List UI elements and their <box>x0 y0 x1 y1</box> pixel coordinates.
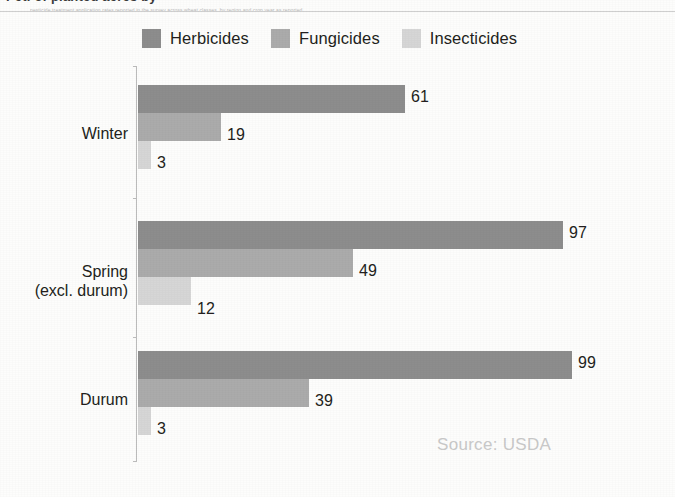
bar-value-durum-insecticides: 3 <box>157 420 166 438</box>
bar-value-spring-insecticides: 12 <box>197 300 215 318</box>
category-label-winter: Winter <box>82 124 128 143</box>
bar-value-winter-fungicides: 19 <box>227 126 245 144</box>
axis-tick <box>133 461 137 462</box>
chart-figure: Pct. of planted acres by pesticide treat… <box>0 0 675 497</box>
category-label-line: Spring <box>35 262 128 281</box>
category-label-spring: Spring (excl. durum) <box>35 262 128 300</box>
bar-value-spring-herbicides: 97 <box>569 224 587 242</box>
bar-winter-insecticides[interactable] <box>138 141 151 169</box>
bar-durum-insecticides[interactable] <box>138 407 151 435</box>
bar-spring-fungicides[interactable] <box>138 249 353 277</box>
bar-spring-insecticides[interactable] <box>138 277 191 305</box>
category-label-line: Durum <box>80 390 128 409</box>
bar-value-durum-fungicides: 39 <box>315 392 333 410</box>
bar-value-winter-herbicides: 61 <box>411 88 429 106</box>
bar-durum-fungicides[interactable] <box>138 379 309 407</box>
bar-winter-herbicides[interactable] <box>138 85 405 113</box>
axis-tick <box>133 337 137 338</box>
bar-durum-herbicides[interactable] <box>138 351 572 379</box>
source-note: Source: USDA <box>437 435 551 455</box>
bar-value-spring-fungicides: 49 <box>359 262 377 280</box>
y-axis-line <box>136 66 137 462</box>
category-label-line: Winter <box>82 124 128 143</box>
bar-value-durum-herbicides: 99 <box>578 354 596 372</box>
bar-winter-fungicides[interactable] <box>138 113 221 141</box>
plot-area: Winter 61 19 3 Spring (excl. durum) 97 4… <box>0 0 675 497</box>
bar-value-winter-insecticides: 3 <box>157 154 166 172</box>
axis-tick <box>133 66 137 67</box>
bar-spring-herbicides[interactable] <box>138 221 563 249</box>
axis-tick <box>133 198 137 199</box>
category-label-line: (excl. durum) <box>35 281 128 300</box>
category-label-durum: Durum <box>80 390 128 409</box>
